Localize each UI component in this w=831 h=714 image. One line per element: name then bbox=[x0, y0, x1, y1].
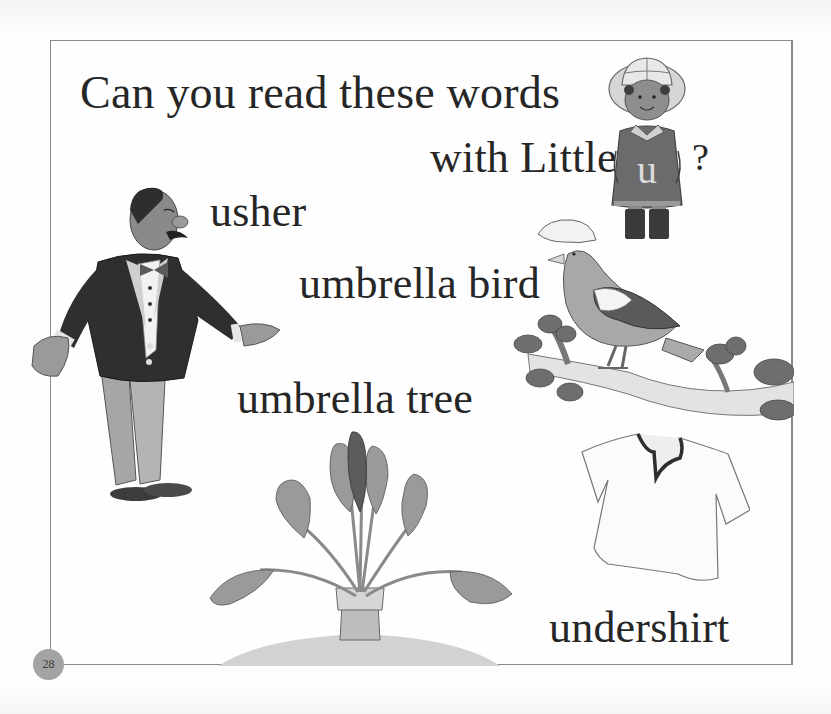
book-page: Can you read these words with Little ? u bbox=[0, 0, 831, 714]
undershirt-illustration-icon bbox=[578, 428, 750, 584]
page-heading: Can you read these words bbox=[80, 70, 560, 116]
word-usher: usher bbox=[210, 190, 306, 234]
page-number-badge: 28 bbox=[33, 649, 64, 680]
word-undershirt: undershirt bbox=[549, 606, 729, 650]
word-umbrella-tree: umbrella tree bbox=[237, 377, 473, 421]
umbrella-tree-illustration-icon bbox=[200, 428, 520, 666]
umbrella-bird-illustration-icon bbox=[508, 214, 794, 424]
heading-continuation: with Little bbox=[430, 136, 617, 180]
page-number: 28 bbox=[43, 657, 55, 672]
word-umbrella-bird: umbrella bird bbox=[299, 262, 540, 306]
letter-u-on-tunic: u bbox=[637, 147, 657, 192]
